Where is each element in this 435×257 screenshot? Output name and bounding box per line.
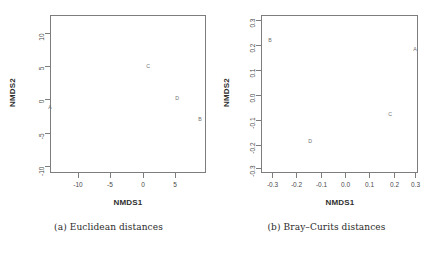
y-tick-label: -5 — [38, 134, 45, 158]
y-tick-label: -10 — [38, 167, 45, 191]
panel-caption-euclidean: (a) Euclidean distances — [0, 222, 217, 232]
x-tick-mark — [345, 173, 346, 178]
data-point: D — [308, 139, 312, 144]
panel-bray-curtis: NMDS2 NMDS1 0.3 0.2 0.1 0.0 -0.1 -0.2 -0… — [218, 0, 435, 257]
y-tick-label: 0 — [38, 100, 45, 124]
x-tick-mark — [415, 173, 416, 178]
data-point: A — [413, 47, 416, 52]
y-tick-label: 0.1 — [249, 69, 256, 95]
x-tick-mark — [143, 173, 144, 178]
x-tick-label: 5 — [160, 181, 190, 188]
panel-caption-bray-curtis: (b) Bray–Curits distances — [218, 222, 435, 232]
y-tick-mark — [45, 133, 50, 134]
panel-euclidean: NMDS2 NMDS1 10 5 0 -5 -10 -10 -5 0 5 A C… — [0, 0, 217, 257]
y-tick-mark — [256, 120, 261, 121]
data-point: C — [146, 64, 150, 69]
plot-area-euclidean — [50, 15, 206, 173]
x-tick-mark — [110, 173, 111, 178]
x-tick-label: 0.3 — [401, 181, 430, 188]
data-point: D — [175, 96, 179, 101]
y-tick-label: 0.2 — [249, 44, 256, 70]
data-point: B — [198, 117, 201, 122]
y-tick-mark — [45, 99, 50, 100]
y-tick-label: -0.1 — [249, 118, 256, 144]
y-tick-mark — [45, 66, 50, 67]
y-tick-label: 0.0 — [249, 94, 256, 120]
data-point: C — [388, 112, 392, 117]
plot-area-bray-curtis — [261, 15, 418, 173]
x-tick-label: -10 — [63, 181, 93, 188]
y-tick-label: 10 — [38, 34, 45, 58]
y-tick-mark — [256, 168, 261, 169]
x-tick-mark — [175, 173, 176, 178]
x-tick-mark — [272, 173, 273, 178]
x-tick-mark — [78, 173, 79, 178]
x-axis-title-bray-curtis: NMDS1 — [310, 198, 370, 207]
y-tick-label: -0.3 — [249, 166, 256, 192]
y-tick-mark — [45, 166, 50, 167]
x-tick-mark — [321, 173, 322, 178]
data-point: A — [48, 105, 51, 110]
y-tick-mark — [256, 20, 261, 21]
y-tick-mark — [256, 45, 261, 46]
y-tick-mark — [256, 70, 261, 71]
x-tick-label: 0 — [128, 181, 158, 188]
x-tick-mark — [394, 173, 395, 178]
x-tick-label: -5 — [95, 181, 125, 188]
y-tick-label: 5 — [38, 67, 45, 91]
y-axis-title-bray-curtis: NMDS2 — [222, 63, 231, 123]
y-tick-mark — [256, 145, 261, 146]
y-axis-title-euclidean: NMDS2 — [8, 63, 17, 123]
figure-two-panel-nmds: NMDS2 NMDS1 10 5 0 -5 -10 -10 -5 0 5 A C… — [0, 0, 435, 257]
y-tick-mark — [45, 33, 50, 34]
x-tick-mark — [369, 173, 370, 178]
y-tick-label: 0.3 — [249, 19, 256, 45]
x-tick-mark — [296, 173, 297, 178]
x-axis-title-euclidean: NMDS1 — [98, 198, 158, 207]
y-tick-mark — [256, 95, 261, 96]
data-point: B — [268, 38, 271, 43]
